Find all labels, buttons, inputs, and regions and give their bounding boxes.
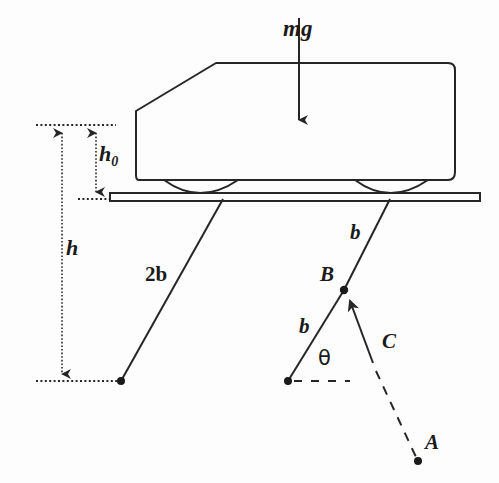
label-point-c: C <box>382 331 396 352</box>
wheel-rear <box>355 180 428 193</box>
wheel-front <box>164 180 238 193</box>
force-arrow-c <box>350 301 373 363</box>
physics-diagram-figure: mg h0 h 2b b b θ B C A <box>0 0 499 483</box>
vehicle-body <box>136 63 455 180</box>
label-b-lower: b <box>299 316 310 337</box>
label-point-a: A <box>425 432 439 453</box>
label-theta: θ <box>318 348 331 369</box>
link-long-2b <box>117 199 223 385</box>
link-upper-b <box>344 199 390 290</box>
point-b-marker <box>340 286 348 294</box>
platform-beam <box>110 193 480 201</box>
label-2b: 2b <box>145 264 167 285</box>
label-h0-subscript: 0 <box>111 154 118 169</box>
label-mg: mg <box>283 17 312 40</box>
label-h: h <box>66 237 78 259</box>
label-point-b: B <box>320 264 334 285</box>
dashed-line-to-a <box>376 371 422 465</box>
label-b-upper: b <box>350 222 361 243</box>
label-h0-base: h <box>99 141 111 166</box>
label-h0: h0 <box>99 143 118 169</box>
link-lower-b <box>284 290 344 385</box>
